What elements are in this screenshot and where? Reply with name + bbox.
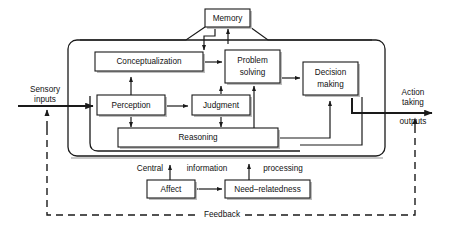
sensory-inputs-label-line2: inputs [34,95,56,104]
node-decision-making[interactable] [303,62,358,95]
action-taking-label-line2: taking [402,98,424,107]
processing-label: processing [263,164,303,173]
diagram-canvas: Memory Conceptualization Problem solving… [0,0,454,232]
edge-memory-right-link [250,27,372,40]
judgment-label: Judgment [203,101,240,110]
problem-solving-label-line2: solving [240,68,266,77]
diagram-container: Memory Conceptualization Problem solving… [0,0,454,232]
conceptualization-label: Conceptualization [116,57,182,66]
central-label: Central [137,164,164,173]
node-problem-solving[interactable] [225,50,280,83]
edge-memory-left-link [80,27,205,40]
feedback-label: Feedback [204,210,241,219]
edge-memory-to-conceptualization [204,28,215,50]
need-relatedness-label: Need–relatedness [234,185,300,194]
reasoning-label: Reasoning [178,133,218,142]
memory-label: Memory [213,14,243,23]
sensory-inputs-label-line1: Sensory [30,85,61,94]
action-taking-label-line1: Action [402,88,425,97]
problem-solving-label-line1: Problem [237,56,268,65]
action-taking-label-line3: outputs [400,117,427,126]
edge-reasoning-to-decision-making [279,101,330,138]
affect-label: Affect [161,185,183,194]
decision-making-label-line1: Decision [315,68,347,77]
perception-label: Perception [111,101,151,110]
information-label: information [187,164,228,173]
decision-making-label-line2: making [317,80,344,89]
